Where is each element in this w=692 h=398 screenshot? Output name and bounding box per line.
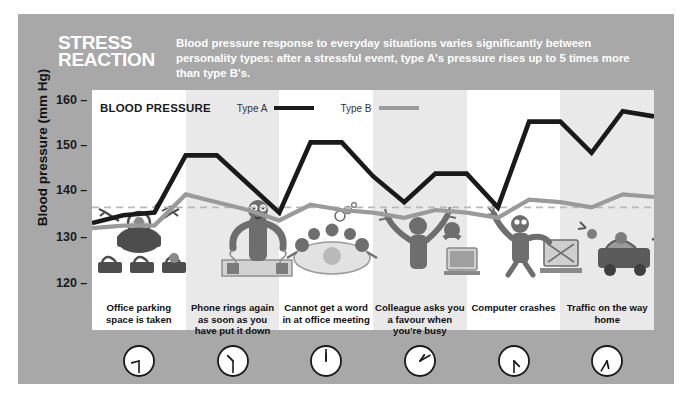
caption-2: Phone rings again as soon as you have pu… <box>186 302 280 337</box>
clock-icon-4 <box>403 344 437 382</box>
clock-icon-1 <box>122 344 156 382</box>
y-tick-150: 150 – <box>56 138 674 152</box>
clock-icon-2 <box>216 344 250 382</box>
chart-panel: BLOOD PRESSURE Type A Type B <box>92 90 654 330</box>
poster-subtitle: Blood pressure response to everyday situ… <box>176 36 646 81</box>
poster-title: STRESS REACTION <box>58 34 178 68</box>
series-line-type-b <box>92 194 654 228</box>
situation-captions: Office parking space is taken Phone ring… <box>92 302 654 346</box>
y-tick-160: 160 – <box>56 93 674 107</box>
blood-pressure-line-chart <box>92 90 654 330</box>
caption-1: Office parking space is taken <box>92 302 186 325</box>
caption-3: Cannot get a word in at office meeting <box>279 302 373 325</box>
clock-icon-5 <box>497 344 531 382</box>
caption-5: Computer crashes <box>467 302 561 314</box>
caption-6: Traffic on the way home <box>560 302 654 325</box>
y-tick-120: 120 – <box>56 276 674 290</box>
infographic-poster: STRESS REACTION Blood pressure response … <box>18 14 674 384</box>
poster-header: STRESS REACTION Blood pressure response … <box>18 14 674 90</box>
y-tick-140: 140 – <box>56 183 674 197</box>
y-tick-130: 130 – <box>56 230 674 244</box>
clock-icon-6 <box>590 344 624 382</box>
clock-icon-3 <box>309 344 343 382</box>
y-axis-label: Blood pressure (mm Hg) <box>35 48 50 248</box>
poster-title-line2: REACTION <box>58 51 178 68</box>
caption-4: Colleague asks you a favour when you're … <box>373 302 467 337</box>
clock-row <box>92 344 654 384</box>
